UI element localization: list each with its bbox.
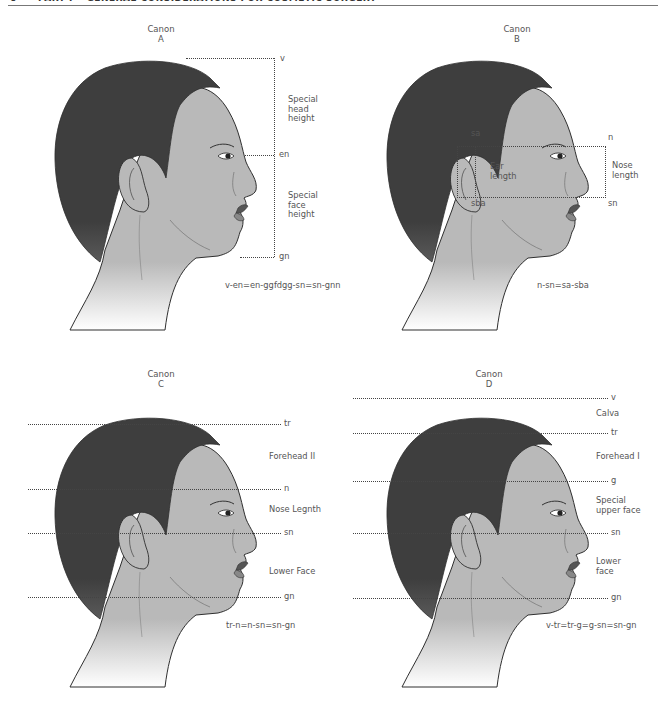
landmark-gn: gn [279,252,290,262]
landmark-gn: gn [611,593,622,603]
tr-line [28,424,281,425]
measurement-bracket [274,58,275,257]
canon-a-formula: v-en=en-ggfdgg-sn=sn-gnn [225,280,341,290]
ear-length-label: Ear length [490,162,516,181]
landmark-tr: tr [611,428,618,438]
landmark-v: v [611,393,616,403]
landmark-sn: sn [608,199,618,209]
special-upper-face-label: Special upper face [596,496,641,515]
canon-d-title: Canon D [459,369,519,389]
canon-d-formula: v-tr=tr-g=g-sn=sn-gn [546,620,637,630]
calva-label: Calva [596,409,619,419]
forehead-ii-label: Forehead II [269,452,315,462]
head-profile-illustration [0,357,331,702]
gn-line [240,257,274,258]
v-line [186,58,274,59]
v-line [353,398,608,399]
special-face-height-label: Special face height [288,191,318,220]
lower-face-label: Lower Face [269,567,315,577]
canon-a-panel: Canon A v en gn Special head height Spec… [0,0,331,345]
special-head-height-label: Special head height [288,95,318,124]
nose-length-box [457,146,606,198]
sn-line [353,533,608,534]
lower-face-label: Lower face [596,557,621,576]
canon-b-panel: Canon B sa sba n sn Ear length Nose leng… [332,0,663,345]
landmark-tr: tr [284,419,291,429]
en-line [245,155,274,156]
canon-c-panel: Canon C tr n sn gn Forehead II Nose Legn… [0,357,331,702]
canon-d-panel: Canon D v tr g sn gn Calva Forehead I Sp… [332,357,663,702]
landmark-n: n [284,484,289,494]
landmark-gn: gn [284,592,295,602]
landmark-sn: sn [611,528,621,538]
landmark-g: g [611,476,616,486]
n-line [28,489,281,490]
sn-line [28,533,281,534]
canon-c-title: Canon C [131,369,191,389]
canon-a-title: Canon A [131,24,191,44]
canon-c-formula: tr-n=n-sn=sn-gn [226,620,295,630]
landmark-sba: sba [471,199,486,209]
gn-line [353,598,608,599]
head-profile-illustration [0,0,331,345]
canon-b-formula: n-sn=sa-sba [537,280,589,290]
landmark-sn: sn [284,528,294,538]
g-line [353,481,608,482]
landmark-sa: sa [471,129,480,139]
nose-length-label: Nose Legnth [269,505,321,515]
forehead-i-label: Forehead I [596,452,640,462]
landmark-v: v [280,54,285,64]
landmark-en: en [279,150,289,160]
tr-line [353,433,608,434]
landmark-n: n [608,133,613,143]
nose-length-label: Nose length [612,161,638,180]
gn-line [28,597,281,598]
canon-b-title: Canon B [487,24,547,44]
